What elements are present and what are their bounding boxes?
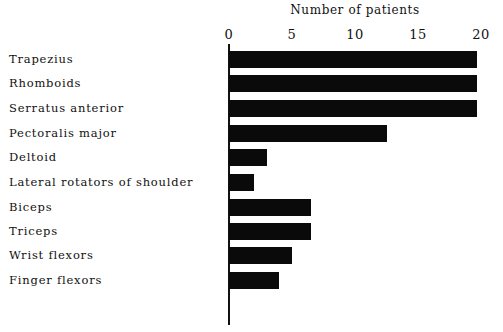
axis-title: Number of patients xyxy=(229,3,481,17)
bar-row: Trapezius xyxy=(0,51,503,68)
x-tick-0: 0 xyxy=(225,27,234,42)
bar xyxy=(229,223,311,240)
bar-row: Wrist flexors xyxy=(0,247,503,264)
x-tick-5: 5 xyxy=(288,27,297,42)
bar xyxy=(229,125,387,142)
bar-label: Pectoralis major xyxy=(9,125,117,142)
bar-label: Biceps xyxy=(9,199,52,216)
bar xyxy=(229,149,267,166)
bar xyxy=(229,272,279,289)
x-tick-10: 10 xyxy=(346,27,364,42)
bar-row: Deltoid xyxy=(0,149,503,166)
bar xyxy=(229,174,254,191)
x-tick-20: 20 xyxy=(472,27,490,42)
bar-row: Lateral rotators of shoulder xyxy=(0,174,503,191)
bar-label: Finger flexors xyxy=(9,272,102,289)
bar xyxy=(229,247,292,264)
bar-row: Pectoralis major xyxy=(0,125,503,142)
bar-row: Serratus anterior xyxy=(0,100,503,117)
bar xyxy=(229,199,311,216)
bar xyxy=(229,75,477,92)
bar-label: Rhomboids xyxy=(9,75,81,92)
bar-label: Lateral rotators of shoulder xyxy=(9,174,193,191)
bar-label: Deltoid xyxy=(9,149,57,166)
bar-row: Triceps xyxy=(0,223,503,240)
bar-row: Biceps xyxy=(0,199,503,216)
bar-row: Rhomboids xyxy=(0,75,503,92)
bar-row: Finger flexors xyxy=(0,272,503,289)
bar-label: Triceps xyxy=(9,223,58,240)
x-tick-15: 15 xyxy=(409,27,427,42)
bar xyxy=(229,51,477,68)
bar-label: Trapezius xyxy=(9,51,73,68)
bar xyxy=(229,100,477,117)
bar-label: Wrist flexors xyxy=(9,247,94,264)
bar-label: Serratus anterior xyxy=(9,100,124,117)
